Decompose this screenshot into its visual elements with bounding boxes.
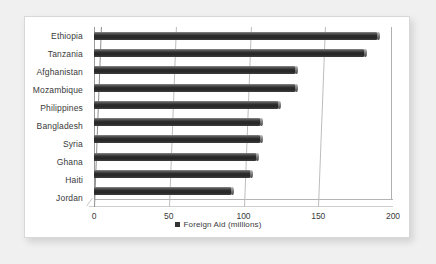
bar — [94, 84, 296, 92]
bar — [94, 135, 261, 143]
chart-legend: Foreign Aid (millions) — [25, 220, 411, 229]
bar — [94, 101, 279, 109]
chart-card: EthiopiaTanzaniaAfghanistanMozambiquePhi… — [24, 16, 410, 238]
bar-row — [94, 44, 393, 61]
bar — [94, 170, 251, 178]
bar-row — [94, 183, 393, 200]
bar-end-cap — [260, 118, 263, 126]
bar-end-cap — [250, 170, 253, 178]
bar-series — [94, 27, 393, 200]
category-label: Afghanistan — [25, 68, 88, 77]
category-label: Jordan — [25, 194, 88, 203]
legend-swatch-icon — [175, 222, 180, 227]
bar — [94, 32, 378, 40]
bar-end-cap — [231, 187, 234, 195]
bar-end-cap — [256, 153, 259, 161]
bar-row — [94, 148, 393, 165]
bar — [94, 118, 261, 126]
chart-plot: EthiopiaTanzaniaAfghanistanMozambiquePhi… — [25, 17, 411, 239]
bar — [94, 187, 232, 195]
category-axis: EthiopiaTanzaniaAfghanistanMozambiquePhi… — [25, 27, 88, 207]
bar-end-cap — [295, 84, 298, 92]
plot-area — [89, 27, 393, 207]
category-label: Bangladesh — [25, 122, 88, 131]
bar-end-cap — [364, 49, 367, 57]
bar-row — [94, 96, 393, 113]
bar — [94, 66, 296, 74]
bar-row — [94, 79, 393, 96]
bar-end-cap — [260, 135, 263, 143]
bar — [94, 49, 365, 57]
category-label: Philippines — [25, 104, 88, 113]
category-label: Tanzania — [25, 50, 88, 59]
bar — [94, 153, 257, 161]
bar-row — [94, 27, 393, 44]
legend-label: Foreign Aid (millions) — [184, 220, 262, 229]
category-label: Ghana — [25, 158, 88, 167]
bar-row — [94, 113, 393, 130]
category-label: Syria — [25, 140, 88, 149]
category-label: Mozambique — [25, 86, 88, 95]
category-label: Haiti — [25, 176, 88, 185]
category-label: Ethiopia — [25, 32, 88, 41]
bar-row — [94, 165, 393, 182]
bar-end-cap — [377, 32, 380, 40]
bar-end-cap — [278, 101, 281, 109]
plot-floor-edge — [89, 199, 393, 207]
bar-row — [94, 131, 393, 148]
bar-row — [94, 62, 393, 79]
bar-end-cap — [295, 66, 298, 74]
